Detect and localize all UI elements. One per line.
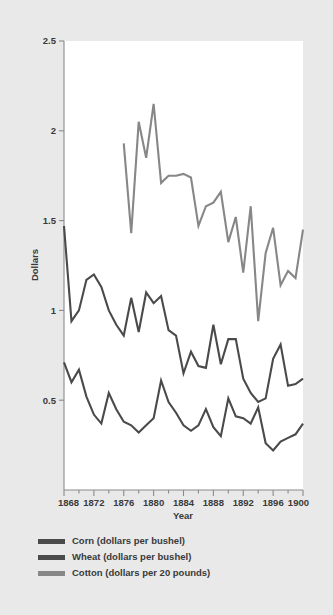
x-tick-label: 1880 (143, 497, 164, 508)
chart-legend: Corn (dollars per bushel) Wheat (dollars… (38, 534, 318, 582)
legend-swatch-wheat (38, 555, 65, 560)
legend-item-corn: Corn (dollars per bushel) (38, 534, 318, 548)
y-tick-label: 1 (51, 305, 57, 316)
y-tick-label: 0.5 (43, 395, 57, 406)
legend-swatch-cotton (38, 571, 65, 576)
x-axis-title: Year (173, 510, 193, 521)
y-tick-label: 2 (51, 125, 56, 136)
legend-swatch-corn (38, 539, 65, 544)
x-tick-label: 1892 (233, 497, 254, 508)
y-tick-label: 1.5 (43, 215, 57, 226)
y-tick-label: 2.5 (43, 35, 57, 46)
legend-item-wheat: Wheat (dollars per bushel) (38, 550, 318, 564)
x-tick-label: 1896 (263, 497, 284, 508)
series-line-wheat (64, 226, 303, 402)
x-tick-label: 1872 (83, 497, 104, 508)
series-line-cotton (124, 104, 303, 321)
x-tick-label: 1868 (58, 497, 79, 508)
legend-label-corn: Corn (dollars per bushel) (72, 536, 185, 546)
x-tick-label: 1900 (288, 497, 309, 508)
chart-figure: 0.511.522.518681872187618801884188818921… (0, 0, 333, 615)
x-tick-label: 1884 (173, 497, 195, 508)
legend-item-cotton: Cotton (dollars per 20 pounds) (38, 566, 318, 580)
series-group (64, 104, 303, 451)
axis-tick-labels: 0.511.522.518681872187618801884188818921… (43, 35, 309, 508)
legend-label-cotton: Cotton (dollars per 20 pounds) (72, 568, 210, 578)
axis-group (59, 41, 303, 496)
x-tick-label: 1876 (113, 497, 134, 508)
chart-canvas: 0.511.522.518681872187618801884188818921… (0, 0, 333, 615)
legend-label-wheat: Wheat (dollars per bushel) (72, 552, 191, 562)
y-axis-title: Dollars (29, 249, 40, 281)
x-tick-label: 1888 (203, 497, 224, 508)
